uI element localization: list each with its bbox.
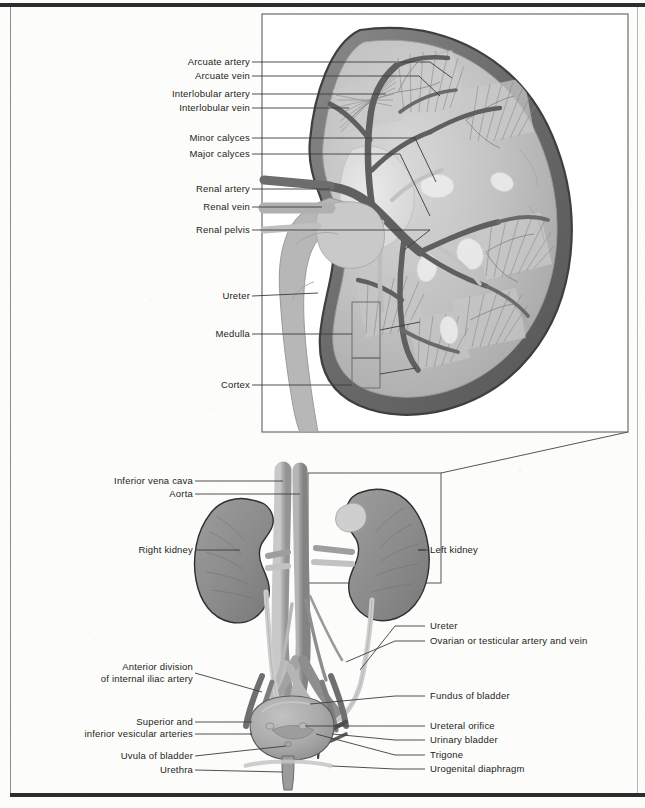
figure-page: Arcuate artery Arcuate vein Interlobular… bbox=[0, 0, 645, 808]
label-fundus-of-bladder: Fundus of bladder bbox=[430, 690, 510, 702]
label-ureteral-orifice: Ureteral orifice bbox=[430, 720, 495, 732]
label-urinary-bladder: Urinary bladder bbox=[430, 734, 498, 746]
label-ureter-lower: Ureter bbox=[430, 620, 458, 632]
leader-trigone bbox=[316, 734, 395, 755]
leader-anterior-division-internal-iliac bbox=[195, 673, 262, 692]
leader-fundus-of-bladder bbox=[310, 696, 395, 704]
label-inferior-vena-cava: Inferior vena cava bbox=[55, 475, 193, 487]
label-ovarian-testicular-vessels: Ovarian or testicular artery and vein bbox=[430, 635, 588, 647]
leader-uvula-of-bladder bbox=[195, 746, 286, 756]
label-right-kidney: Right kidney bbox=[55, 544, 193, 556]
leader-ureter-lower bbox=[360, 626, 395, 670]
label-uvula-of-bladder: Uvula of bladder bbox=[55, 750, 193, 762]
bottom-panel-leaders bbox=[0, 0, 645, 808]
label-superior-inferior-vesicular-arteries: Superior and inferior vesicular arteries bbox=[23, 716, 193, 739]
leader-ovarian-testicular bbox=[346, 641, 395, 662]
label-trigone: Trigone bbox=[430, 749, 463, 761]
leader-urethra bbox=[195, 770, 283, 772]
label-left-kidney: Left kidney bbox=[430, 544, 478, 556]
label-urogenital-diaphragm: Urogenital diaphragm bbox=[430, 763, 525, 775]
label-anterior-division-internal-iliac-artery: Anterior division of internal iliac arte… bbox=[35, 661, 193, 684]
leader-urinary-bladder bbox=[332, 734, 395, 740]
label-urethra: Urethra bbox=[55, 764, 193, 776]
label-aorta: Aorta bbox=[55, 488, 193, 500]
leader-urogenital-diaphragm bbox=[332, 766, 395, 769]
